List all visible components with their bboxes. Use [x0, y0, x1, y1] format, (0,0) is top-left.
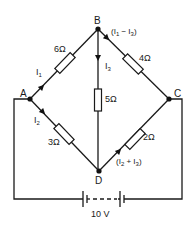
resistor-5ohm [95, 89, 102, 111]
battery-10v [83, 191, 124, 207]
node-label-c: C [174, 89, 181, 99]
arrow-i3-icon [95, 55, 101, 61]
node-d [96, 168, 101, 173]
node-label-b: B [94, 16, 101, 26]
resistor-6ohm [55, 53, 75, 74]
resistor-label-2ohm: 2Ω [143, 133, 155, 142]
node-label-d: D [95, 176, 102, 186]
node-b [95, 26, 100, 31]
current-label-i1: I1 [36, 68, 42, 78]
current-label-i1-minus-i3: (I1 − I3) [111, 28, 137, 37]
node-label-a: A [20, 89, 27, 99]
resistor-label-3ohm: 3Ω [48, 138, 60, 147]
node-a [27, 96, 32, 101]
resistor-label-6ohm: 6Ω [54, 45, 66, 54]
current-label-i3: I3 [105, 62, 111, 72]
node-c [166, 96, 171, 101]
battery-label: 10 V [91, 210, 110, 219]
wire-c-to-battery [124, 99, 182, 199]
current-label-i2-plus-i3: (I2 + I3) [116, 158, 142, 167]
wire-a-to-battery [14, 99, 83, 199]
resistor-label-5ohm: 5Ω [105, 95, 117, 104]
circuit-diagram [0, 0, 191, 231]
resistor-label-4ohm: 4Ω [139, 54, 151, 63]
current-label-i2: I2 [34, 116, 40, 126]
